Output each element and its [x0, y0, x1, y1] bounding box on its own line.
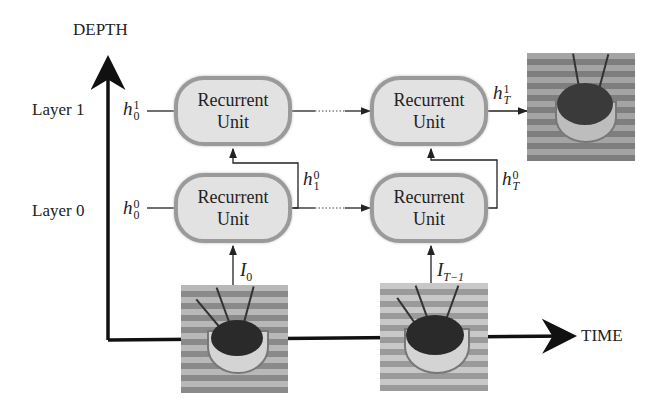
recurrent-unit-layer1-tT: RecurrentUnit: [370, 76, 488, 146]
input-I-T-minus-1-label: IT−1: [437, 259, 464, 285]
h-0-0-label: h00: [123, 197, 140, 221]
h-T-1-label: h1T: [493, 82, 510, 106]
h-1-0-label: h01: [303, 168, 320, 192]
recurrent-unit-layer0-tT: RecurrentUnit: [370, 173, 488, 243]
time-axis-label: TIME: [581, 326, 623, 346]
h-0-1-label: h10: [123, 98, 140, 122]
predicted-frame-T-image: [527, 53, 635, 161]
h-T-0-label: h0T: [502, 168, 519, 192]
input-I-0-label: I0: [240, 259, 252, 285]
recurrent-unit-layer0-t0: RecurrentUnit: [174, 173, 292, 243]
time-axis: [108, 336, 570, 340]
layer-0-label: Layer 0: [32, 201, 84, 221]
recurrent-unit-layer1-t0: RecurrentUnit: [174, 76, 292, 146]
layer-1-label: Layer 1: [32, 100, 84, 120]
input-frame-T-minus-1-image: [380, 283, 488, 391]
input-frame-0-image: [181, 285, 288, 393]
depth-axis-label: DEPTH: [73, 20, 128, 40]
